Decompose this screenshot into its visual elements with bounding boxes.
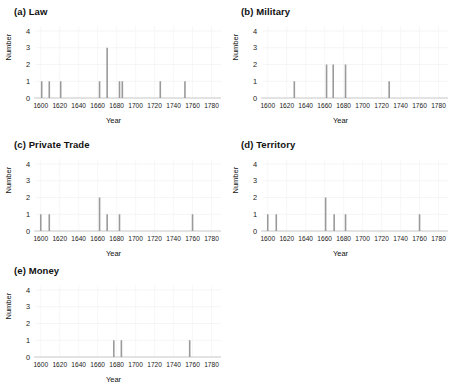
y-tick-label: 1 [26,77,30,86]
x-tick-label: 1700 [355,102,370,109]
panel-d-plot: Number 012341600162016401660168017001720… [227,153,454,263]
bar [332,65,334,98]
panel-b-title: (b) Military [241,6,290,17]
bar [41,81,43,98]
bar [192,214,194,231]
panel-a-ylabel: Number [4,49,13,61]
x-tick-label: 1680 [336,102,351,109]
x-tick-label: 1640 [71,102,86,109]
x-tick-label: 1600 [33,235,48,242]
panel-b-plot: Number 012341600162016401660168017001720… [227,20,454,130]
x-tick-label: 1680 [109,361,124,368]
x-tick-label: 1780 [204,361,219,368]
panel-c-plot: Number 012341600162016401660168017001720… [0,153,227,263]
y-tick-label: 3 [26,43,30,52]
x-tick-label: 1700 [128,102,143,109]
x-tick-label: 1680 [336,235,351,242]
x-tick-label: 1760 [185,102,200,109]
y-tick-label: 0 [253,227,257,236]
panel-e-chart-svg: 0123416001620164016601680170017201740176… [0,279,227,386]
x-tick-label: 1740 [166,102,181,109]
x-tick-label: 1720 [374,235,389,242]
panel-a-xlabel: Year [0,116,227,125]
panel-a-chart-svg: 0123416001620164016601680170017201740176… [0,20,227,130]
x-tick-label: 1620 [279,235,294,242]
bar [294,81,296,98]
panel-c-xlabel: Year [0,249,227,258]
x-tick-label: 1600 [33,102,48,109]
y-tick-label: 4 [253,27,257,36]
y-tick-label: 2 [253,60,257,69]
y-tick-label: 4 [26,160,30,169]
bar [40,214,42,231]
y-tick-label: 3 [253,176,257,185]
x-tick-label: 1660 [317,235,332,242]
panel-d-ylabel: Number [231,182,240,194]
bar [159,81,161,98]
x-tick-label: 1700 [355,235,370,242]
x-tick-label: 1660 [90,235,105,242]
x-tick-label: 1720 [147,102,162,109]
y-tick-label: 0 [253,94,257,103]
x-tick-label: 1780 [431,235,446,242]
bar [345,65,347,98]
x-tick-label: 1700 [128,235,143,242]
x-tick-label: 1640 [298,102,313,109]
y-tick-label: 3 [253,43,257,52]
y-tick-label: 1 [26,336,30,345]
x-tick-label: 1620 [52,361,67,368]
bar [99,198,101,231]
x-tick-label: 1740 [393,102,408,109]
panel-b-xlabel: Year [227,116,454,125]
bar [325,198,327,231]
panel-b-military: (b) Military Number 01234160016201640166… [227,2,454,130]
panel-b-ylabel: Number [231,49,240,61]
y-tick-label: 1 [253,77,257,86]
bar [275,214,277,231]
panel-d-territory: (d) Territory Number 0123416001620164016… [227,135,454,263]
y-tick-label: 0 [26,227,30,236]
bar [388,81,390,98]
bar [113,340,115,357]
y-tick-label: 2 [26,319,30,328]
x-tick-label: 1760 [185,361,200,368]
y-tick-label: 4 [26,27,30,36]
x-tick-label: 1780 [204,235,219,242]
x-tick-label: 1660 [90,102,105,109]
x-tick-label: 1760 [185,235,200,242]
panel-e-plot: Number 012341600162016401660168017001720… [0,279,227,386]
x-tick-label: 1680 [109,235,124,242]
bar [419,214,421,231]
x-tick-label: 1620 [52,235,67,242]
panel-c-private-trade: (c) Private Trade Number 012341600162016… [0,135,227,263]
bar [48,214,50,231]
bar [106,48,108,98]
bar [184,81,186,98]
panel-a-title: (a) Law [14,6,47,17]
x-tick-label: 1640 [71,235,86,242]
x-tick-label: 1680 [109,102,124,109]
panel-c-chart-svg: 0123416001620164016601680170017201740176… [0,153,227,263]
y-tick-label: 0 [26,353,30,362]
bar [121,340,123,357]
y-tick-label: 2 [253,193,257,202]
x-tick-label: 1640 [298,235,313,242]
x-tick-label: 1600 [260,235,275,242]
x-tick-label: 1720 [147,235,162,242]
panel-e-money: (e) Money Number 01234160016201640166016… [0,261,227,386]
x-tick-label: 1740 [166,361,181,368]
x-tick-label: 1780 [204,102,219,109]
panel-d-title: (d) Territory [241,139,295,150]
panel-e-title: (e) Money [14,265,59,276]
panel-a-law: (a) Law Number 0123416001620164016601680… [0,2,227,130]
y-tick-label: 1 [253,210,257,219]
x-tick-label: 1620 [279,102,294,109]
bar [99,81,101,98]
y-tick-label: 0 [26,94,30,103]
bar [189,340,191,357]
bar [48,81,50,98]
panel-a-plot: Number 012341600162016401660168017001720… [0,20,227,130]
panel-d-chart-svg: 0123416001620164016601680170017201740176… [227,153,454,263]
panel-e-xlabel: Year [0,375,227,384]
x-tick-label: 1660 [90,361,105,368]
